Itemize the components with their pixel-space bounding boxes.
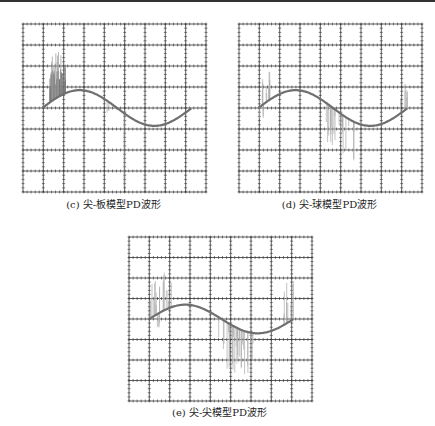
chart-panel-c xyxy=(20,21,209,195)
caption-e: (e) 尖-尖模型PD波形 xyxy=(126,404,313,419)
caption-c: (c) 尖-板模型PD波形 xyxy=(20,196,207,211)
chart-panel-d xyxy=(236,21,425,195)
page-top-rule xyxy=(0,0,435,2)
caption-d: (d) 尖-球模型PD波形 xyxy=(236,196,423,211)
chart-panel-e xyxy=(126,234,315,404)
